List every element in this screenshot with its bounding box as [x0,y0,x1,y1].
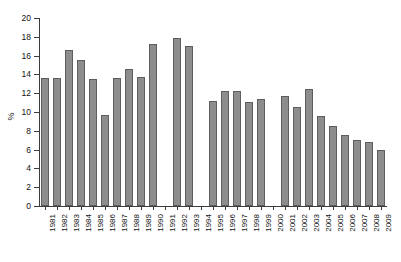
bar [209,101,216,206]
x-tick [333,206,334,210]
x-tick-label: 1989 [145,214,153,232]
x-tick-label: 1984 [85,214,93,232]
bar [101,115,108,206]
x-tick [285,206,286,210]
x-tick [357,206,358,210]
x-tick-label: 1990 [157,214,165,232]
x-tick [57,206,58,210]
bar [365,142,372,206]
x-tick-label: 1995 [217,214,225,232]
x-tick [381,206,382,210]
bar [329,126,336,206]
x-tick [189,206,190,210]
y-tick-label: 0 [26,202,31,211]
y-tick-label: 8 [26,127,31,136]
x-tick-label: 1993 [193,214,201,232]
x-tick-label: 2005 [337,214,345,232]
x-tick [345,206,346,210]
x-tick-label: 1997 [241,214,249,232]
x-tick-label: 1987 [121,214,129,232]
x-tick-label: 2001 [289,214,297,232]
x-tick [117,206,118,210]
x-tick-label: 1999 [265,214,273,232]
x-tick [273,206,274,210]
y-tick-label: 16 [22,52,31,61]
x-tick-label: 1981 [49,214,57,232]
x-tick [129,206,130,210]
bar [65,50,72,206]
x-tick [45,206,46,210]
x-tick [177,206,178,210]
x-tick-label: 2004 [325,214,333,232]
bar [245,102,252,206]
x-tick [105,206,106,210]
y-tick-label: 10 [22,108,31,117]
x-tick [321,206,322,210]
x-tick-label: 2009 [385,214,393,232]
x-tick-label: 1992 [181,214,189,232]
x-tick [93,206,94,210]
bar [317,116,324,206]
y-tick-label: 2 [26,183,31,192]
x-tick-label: 1982 [61,214,69,232]
bar-chart: % 02468101214161820 19811982198319841985… [0,0,401,262]
bar [305,89,312,206]
x-tick-label: 1988 [133,214,141,232]
bar [113,78,120,206]
bar [41,78,48,206]
x-tick-label: 2000 [277,214,285,232]
bar [137,77,144,206]
x-tick-label: 2006 [349,214,357,232]
bar [221,91,228,206]
x-tick [225,206,226,210]
x-tick [141,206,142,210]
y-tick-label: 6 [26,146,31,155]
bar [173,38,180,206]
x-tick [369,206,370,210]
y-tick-label: 4 [26,164,31,173]
bar [353,140,360,206]
plot-area: 02468101214161820 1981198219831984198519… [39,18,387,206]
y-tick [34,206,39,207]
y-tick-label: 14 [22,70,31,79]
bar [125,69,132,206]
x-tick-label: 2008 [373,214,381,232]
x-tick-label: 1998 [253,214,261,232]
bar [149,44,156,206]
x-tick [153,206,154,210]
x-tick [213,206,214,210]
x-tick-label: 2003 [313,214,321,232]
y-tick-label: 12 [22,89,31,98]
bar [53,78,60,206]
y-axis-title: % [7,110,16,124]
x-tick [69,206,70,210]
bar [377,150,384,206]
x-tick [261,206,262,210]
y-tick-label: 20 [22,14,31,23]
bar [293,107,300,206]
x-tick-label: 1983 [73,214,81,232]
bar [257,99,264,206]
x-tick [201,206,202,210]
x-tick [249,206,250,210]
bar [233,91,240,206]
x-tick [165,206,166,210]
x-tick-label: 1986 [109,214,117,232]
x-tick-label: 2007 [361,214,369,232]
x-tick-label: 1985 [97,214,105,232]
bar [77,60,84,206]
x-tick-label: 1996 [229,214,237,232]
x-tick-label: 2002 [301,214,309,232]
y-tick-label: 18 [22,33,31,42]
x-tick [309,206,310,210]
x-tick-label: 1991 [169,214,177,232]
bar-series [39,18,387,206]
bar [89,79,96,206]
x-tick [81,206,82,210]
bar [341,135,348,206]
bar [185,46,192,206]
x-tick [297,206,298,210]
bar [281,96,288,206]
x-tick-label: 1994 [205,214,213,232]
x-tick [237,206,238,210]
